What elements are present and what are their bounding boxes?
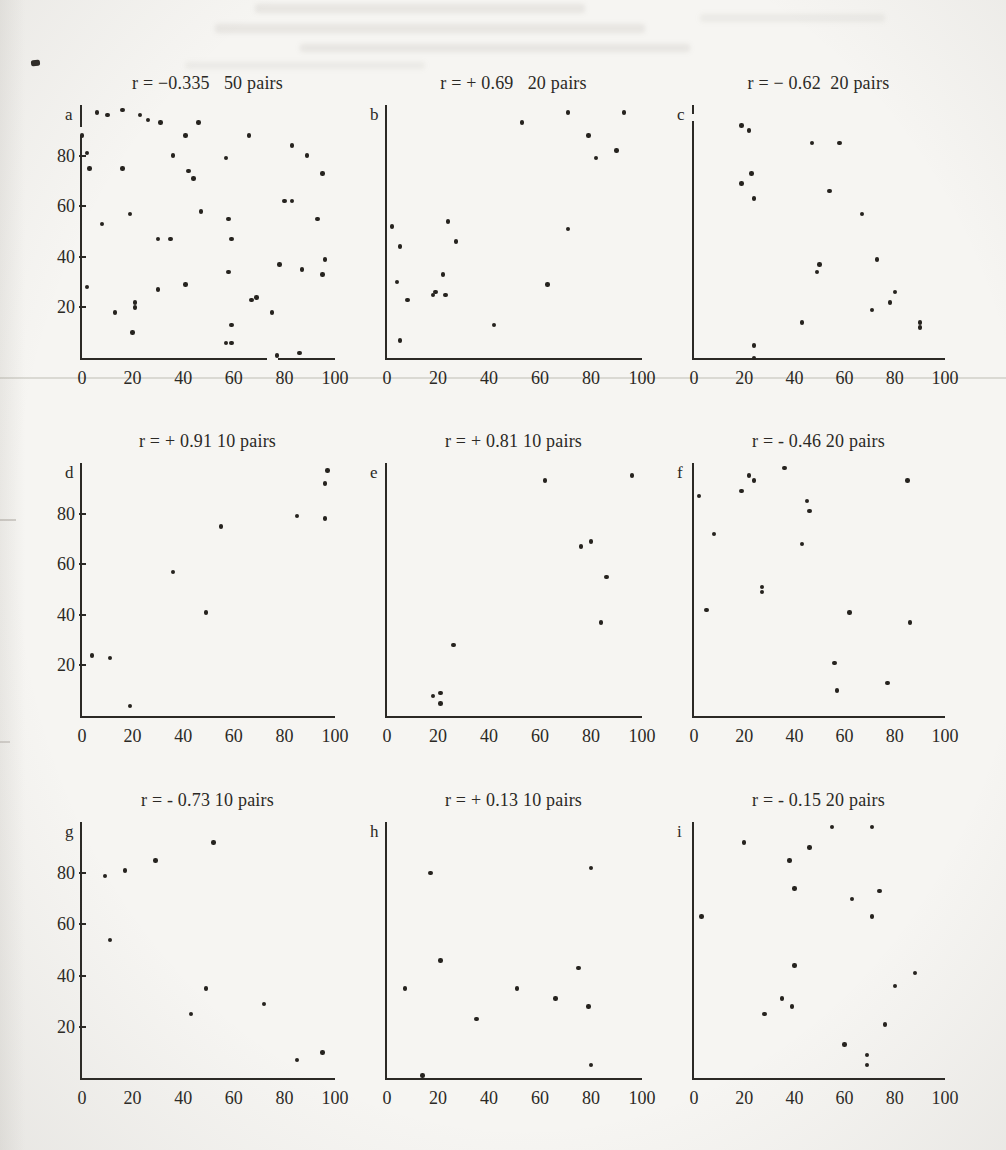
data-point	[762, 1012, 767, 1017]
y-tick-mark	[79, 513, 86, 515]
bleedthrough-artifact	[700, 14, 885, 22]
data-point	[323, 481, 328, 486]
plot-letter: h	[370, 823, 379, 840]
data-point	[842, 1042, 847, 1047]
x-tick-label: 100	[932, 1088, 959, 1108]
plot-title: r = + 0.91 10 pairs	[50, 430, 365, 452]
x-tick-label: 0	[690, 368, 699, 388]
x-tick-label: 0	[690, 1088, 699, 1108]
data-point	[183, 282, 188, 287]
data-point	[85, 285, 90, 290]
y-tick-label: 80	[57, 505, 75, 523]
data-point	[80, 133, 85, 138]
data-point	[566, 110, 571, 115]
data-point	[300, 267, 305, 272]
scatter-plot-i: r = - 0.15 20 pairs i 020406080100	[692, 822, 945, 1080]
data-point	[807, 845, 812, 850]
data-point	[168, 237, 173, 242]
plot-area: 020406080100	[692, 463, 945, 718]
data-point	[229, 237, 234, 242]
y-tick-mark	[79, 923, 86, 925]
data-point	[780, 996, 785, 1001]
x-tick-label: 100	[932, 726, 959, 746]
data-point	[805, 499, 810, 504]
data-point	[95, 110, 100, 115]
data-point	[492, 323, 497, 328]
data-point	[865, 1053, 870, 1058]
data-point	[790, 1004, 795, 1009]
ink-speck-artifact	[31, 60, 41, 67]
x-tick-label: 100	[629, 726, 656, 746]
data-point	[792, 886, 797, 891]
bleedthrough-artifact	[185, 62, 425, 69]
data-point	[290, 199, 295, 204]
scatter-plot-c: r = − 0.62 20 pairs c 020406080100	[692, 105, 945, 360]
data-point	[589, 539, 594, 544]
x-tick-label: 0	[383, 726, 392, 746]
data-point	[918, 325, 923, 330]
x-tick-label: 0	[78, 1088, 87, 1108]
data-point	[295, 1058, 300, 1063]
x-tick-label: 100	[629, 1088, 656, 1108]
data-point	[913, 971, 918, 976]
plot-letter: b	[370, 106, 379, 123]
x-tick-label: 60	[531, 726, 549, 746]
y-tick-label: 80	[57, 147, 75, 165]
data-point	[832, 661, 837, 666]
bleedthrough-artifact	[215, 24, 645, 33]
x-tick-label: 100	[932, 368, 959, 388]
x-tick-label: 80	[582, 726, 600, 746]
data-point	[697, 494, 702, 499]
x-tick-label: 100	[322, 726, 349, 746]
plot-title: r = + 0.69 20 pairs	[355, 72, 672, 94]
x-tick-label: 20	[429, 726, 447, 746]
data-point	[226, 217, 231, 222]
data-point	[905, 478, 910, 483]
data-point	[247, 133, 252, 138]
data-point	[87, 166, 92, 171]
plot-letter: i	[677, 823, 682, 840]
data-point	[893, 984, 898, 989]
y-tick-label: 60	[57, 915, 75, 933]
x-tick-label: 40	[174, 726, 192, 746]
x-tick-label: 100	[629, 368, 656, 388]
data-point	[275, 353, 280, 358]
x-tick-label: 0	[383, 1088, 392, 1108]
data-point	[270, 310, 275, 315]
data-point	[586, 1004, 591, 1009]
data-point	[171, 153, 176, 158]
plot-title: r = −0.335 50 pairs	[50, 72, 365, 94]
data-point	[594, 156, 599, 161]
x-tick-label: 0	[78, 368, 87, 388]
plot-letter: e	[370, 464, 378, 481]
data-point	[815, 270, 820, 275]
data-point	[405, 298, 410, 303]
y-tick-label: 40	[57, 248, 75, 266]
data-point	[120, 166, 125, 171]
y-tick-mark	[79, 664, 86, 666]
plot-area: 020406080100	[692, 822, 945, 1080]
data-point	[451, 643, 456, 648]
x-tick-label: 100	[322, 1088, 349, 1108]
data-point	[446, 219, 451, 224]
data-point	[579, 544, 584, 549]
data-point	[315, 217, 320, 222]
data-point	[398, 338, 403, 343]
scan-line-artifact	[0, 519, 16, 521]
data-point	[282, 199, 287, 204]
y-tick-mark	[79, 563, 86, 565]
x-tick-label: 60	[225, 1088, 243, 1108]
scan-line-artifact	[0, 377, 1006, 379]
y-tick-mark	[79, 306, 86, 308]
data-point	[428, 871, 433, 876]
data-point	[443, 293, 448, 298]
data-point	[604, 575, 609, 580]
plot-area: 020406080100	[692, 105, 945, 360]
data-point	[827, 189, 832, 194]
y-tick-mark	[79, 872, 86, 874]
data-point	[183, 133, 188, 138]
x-tick-label: 20	[735, 1088, 753, 1108]
scatter-plot-h: r = + 0.13 10 pairs h 020406080100	[385, 822, 642, 1080]
data-point	[320, 1050, 325, 1055]
data-point	[885, 681, 890, 686]
